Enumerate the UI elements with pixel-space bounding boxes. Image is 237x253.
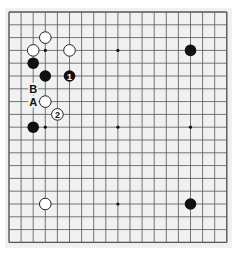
black-stone	[27, 121, 39, 133]
white-stone	[40, 198, 52, 210]
star-point	[44, 49, 47, 52]
white-stone	[27, 45, 39, 57]
star-point	[116, 49, 119, 52]
star-point	[44, 126, 47, 129]
star-point	[116, 202, 119, 205]
marker-label-a: A	[29, 96, 37, 108]
marker-label-b: B	[29, 83, 37, 95]
move-number-1: 1	[67, 72, 72, 82]
white-stone	[40, 32, 52, 44]
black-stone	[27, 57, 39, 69]
star-point	[116, 126, 119, 129]
star-point	[189, 126, 192, 129]
go-board: BA12	[0, 0, 237, 253]
black-stone	[185, 198, 197, 210]
move-number-2: 2	[55, 110, 60, 120]
white-stone	[64, 45, 76, 57]
black-stone	[40, 70, 52, 82]
white-stone	[40, 96, 52, 108]
black-stone	[185, 45, 197, 57]
